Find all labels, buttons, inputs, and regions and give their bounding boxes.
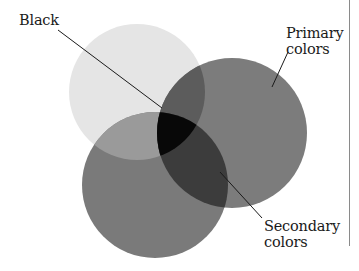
primary-colors-label: Primary colors [286, 25, 343, 57]
secondary-colors-label: Secondary colors [264, 218, 340, 250]
secondary-label-line2: colors [264, 234, 340, 250]
primary-label-line1: Primary [286, 25, 343, 41]
black-label: Black [19, 12, 59, 28]
secondary-label-line1: Secondary [264, 218, 340, 234]
right-frame-divider [349, 0, 350, 246]
black-label-text: Black [19, 12, 59, 28]
primary-label-line2: colors [286, 41, 343, 57]
